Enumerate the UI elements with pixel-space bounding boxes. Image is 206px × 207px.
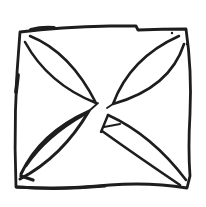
ink-speck-top-right-2: [186, 43, 188, 45]
sketch-figure: [0, 0, 206, 207]
ink-speck-top-right-1: [171, 32, 173, 34]
square-left-edge-overdraw: [16, 75, 18, 92]
square-top-edge-overdraw: [31, 28, 54, 30]
hand-drawn-sketch-canvas: [0, 0, 206, 207]
